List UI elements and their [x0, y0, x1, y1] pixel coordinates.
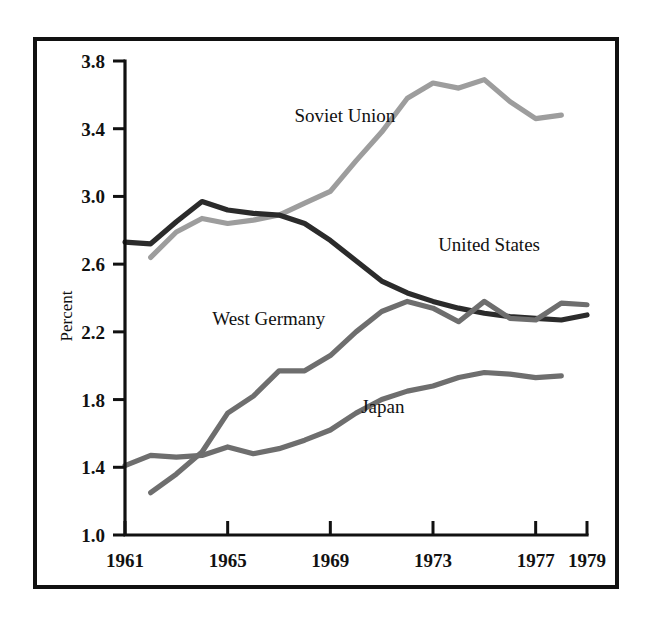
y-axis-tick-label: 3.4 [81, 119, 105, 140]
series-label-west-germany: West Germany [212, 308, 325, 329]
series-label-soviet-union: Soviet Union [294, 105, 395, 126]
y-axis-tick-label: 1.0 [81, 525, 105, 546]
x-axis-tick-label: 1977 [517, 550, 556, 571]
line-chart: 1.01.41.82.22.63.03.43.81961196519691973… [0, 0, 653, 624]
axis-spine [125, 61, 587, 535]
series-line-united-states [125, 202, 587, 321]
y-axis-tick-label: 3.0 [81, 186, 105, 207]
series-label-united-states: United States [438, 234, 540, 255]
y-axis-title: Percent [57, 290, 76, 341]
series-labels: Soviet UnionUnited StatesWest GermanyJap… [212, 105, 540, 417]
y-axis-tick-label: 2.2 [81, 322, 105, 343]
y-axis-tick-label: 2.6 [81, 254, 105, 275]
figure-canvas: 1.01.41.82.22.63.03.43.81961196519691973… [0, 0, 653, 624]
y-axis-tick-label: 1.8 [81, 390, 105, 411]
y-axis-tick-label: 1.4 [81, 457, 105, 478]
x-axis-tick-label: 1979 [568, 550, 606, 571]
x-axis-tick-label: 1969 [311, 550, 349, 571]
series-layer [125, 80, 587, 493]
axes-layer: 1.01.41.82.22.63.03.43.81961196519691973… [57, 51, 606, 571]
x-axis-tick-label: 1973 [414, 550, 452, 571]
x-axis-tick-label: 1965 [209, 550, 247, 571]
series-line-japan [125, 372, 561, 465]
x-axis-tick-label: 1961 [106, 550, 144, 571]
series-label-japan: Japan [361, 396, 405, 417]
y-axis-tick-label: 3.8 [81, 51, 105, 72]
